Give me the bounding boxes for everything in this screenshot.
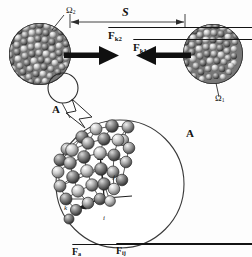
label-omega-2: Ω2: [66, 6, 76, 16]
zoom-region-marker: [48, 73, 78, 103]
magnified-detail-circle: [52, 120, 184, 248]
label-force-ij: Fij: [116, 246, 252, 257]
label-callout-a: A: [52, 104, 60, 115]
left-aggregate-sphere: [7, 15, 71, 85]
label-index-i: i: [103, 215, 105, 222]
label-separation-s: S: [122, 6, 129, 18]
label-detail-a: A: [186, 128, 194, 139]
omega2-leader-line: [52, 15, 64, 30]
magnification-callout-cone: [62, 99, 92, 128]
label-index-j: j: [113, 174, 115, 181]
label-index-k: k: [64, 205, 67, 212]
label-omega-1: Ω1: [215, 94, 225, 104]
label-force-k1: Fk1: [133, 42, 252, 54]
attractive-force-arrow-left: [64, 46, 119, 65]
